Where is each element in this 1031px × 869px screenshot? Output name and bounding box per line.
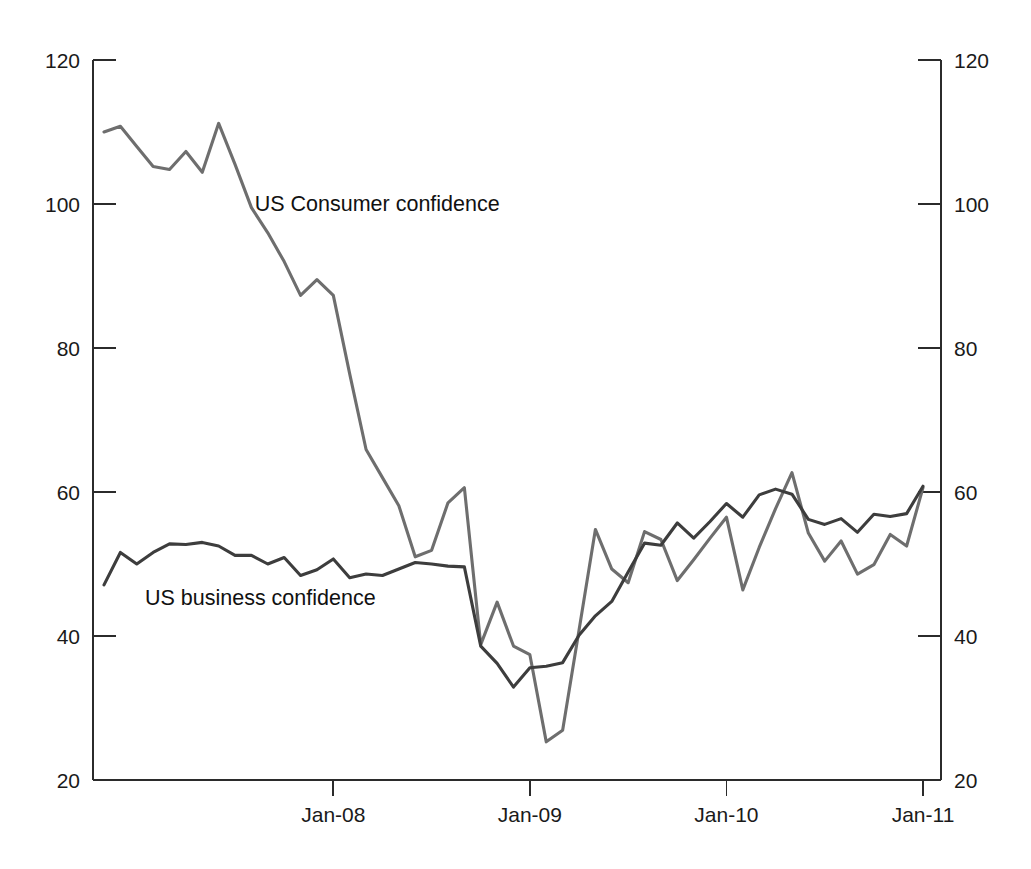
line-chart: 20406080100120 20406080100120 Jan-08Jan-… (0, 0, 1031, 869)
right-axis-tick-label: 80 (954, 337, 977, 360)
right-axis-tick-label: 20 (954, 769, 977, 792)
chart-background (0, 0, 1031, 869)
left-axis-tick-label: 40 (57, 625, 80, 648)
x-axis-tick-label: Jan-11 (892, 803, 955, 826)
left-axis-tick-label: 80 (57, 337, 80, 360)
chart-container: 20406080100120 20406080100120 Jan-08Jan-… (0, 0, 1031, 869)
left-axis-tick-label: 120 (45, 49, 80, 72)
right-axis-tick-label: 120 (954, 49, 989, 72)
series-label-us-business-confidence: US business confidence (145, 586, 376, 610)
left-axis-tick-label: 100 (45, 193, 80, 216)
series-label-us-consumer-confidence: US Consumer confidence (255, 192, 500, 216)
left-axis-tick-label: 20 (57, 769, 80, 792)
left-axis-tick-label: 60 (57, 481, 80, 504)
right-axis-tick-label: 60 (954, 481, 977, 504)
x-axis-tick-label: Jan-09 (498, 803, 562, 826)
right-axis-tick-label: 40 (954, 625, 977, 648)
x-axis-tick-label: Jan-08 (301, 803, 365, 826)
x-axis-tick-label: Jan-10 (694, 803, 758, 826)
right-axis-tick-label: 100 (954, 193, 989, 216)
